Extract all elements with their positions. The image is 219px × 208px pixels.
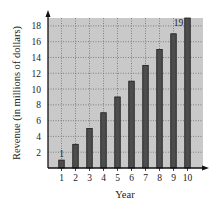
x-axis-arrow-icon	[202, 166, 209, 171]
x-tick-label: 5	[115, 173, 120, 183]
x-ticks: 12345678910	[59, 168, 192, 183]
bar-year-9	[171, 34, 177, 168]
bar-year-5	[115, 97, 121, 168]
y-tick-label: 10	[32, 85, 42, 95]
y-tick-label: 18	[32, 21, 42, 31]
bar-year-8	[157, 50, 163, 168]
y-tick-label: 16	[32, 37, 42, 47]
bar-year-3	[87, 129, 93, 168]
x-tick-label: 9	[171, 173, 176, 183]
y-tick-label: 2	[36, 148, 41, 158]
x-tick-label: 6	[129, 173, 134, 183]
data-label-year-1: 1	[59, 149, 64, 159]
x-axis-title: Year	[115, 189, 135, 200]
data-label-year-10: 19	[174, 18, 184, 28]
x-tick-label: 2	[73, 173, 78, 183]
bar-year-10	[185, 18, 191, 168]
bar-year-4	[101, 113, 107, 168]
y-axis-arrow-icon	[46, 10, 51, 17]
y-tick-label: 12	[32, 69, 42, 79]
x-tick-label: 3	[87, 173, 92, 183]
y-ticks: 24681012141618	[32, 21, 42, 157]
x-tick-label: 8	[157, 173, 162, 183]
y-tick-label: 8	[36, 100, 41, 110]
x-tick-label: 7	[143, 173, 148, 183]
bar-year-2	[73, 144, 79, 168]
y-tick-label: 6	[36, 116, 41, 126]
y-tick-label: 4	[36, 132, 41, 142]
plot-area-background	[48, 18, 203, 168]
y-axis-title: Revenue (in millions of dollars)	[11, 25, 23, 160]
x-tick-label: 4	[101, 173, 106, 183]
x-tick-label: 1	[59, 173, 64, 183]
y-tick-label: 14	[32, 53, 42, 63]
bar-year-7	[143, 65, 149, 168]
x-tick-label: 10	[183, 173, 193, 183]
bar-year-6	[129, 81, 135, 168]
bar-chart: 119 24681012141618 12345678910 Year Reve…	[0, 0, 219, 208]
bar-year-1	[59, 160, 65, 168]
